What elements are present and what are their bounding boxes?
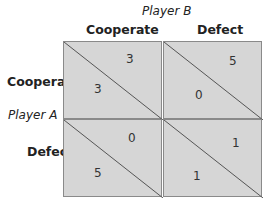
- cell-cooperate-cooperate: 3 3: [63, 41, 162, 119]
- diagonal-divider: [64, 120, 163, 198]
- payoff-b: 0: [128, 131, 136, 145]
- diagonal-divider: [64, 42, 163, 120]
- cell-cooperate-defect: 5 0: [163, 41, 262, 119]
- column-header-cooperate: Cooperate: [86, 22, 159, 37]
- payoff-a: 3: [94, 82, 102, 96]
- column-header-defect: Defect: [197, 22, 243, 37]
- payoff-b: 1: [232, 136, 240, 150]
- payoff-b: 3: [126, 52, 134, 66]
- payoff-a: 1: [193, 169, 201, 183]
- diagonal-divider: [164, 42, 263, 120]
- payoff-b: 5: [229, 54, 237, 68]
- row-player-label: Player A: [8, 108, 57, 122]
- payoff-a: 0: [195, 88, 203, 102]
- column-player-text: Player B: [142, 4, 191, 18]
- diagonal-divider: [164, 120, 263, 198]
- cell-defect-cooperate: 0 5: [63, 119, 162, 197]
- payoff-matrix: 3 3 5 0 0 5 1 1: [63, 41, 262, 197]
- payoff-a: 5: [94, 166, 102, 180]
- cell-defect-defect: 1 1: [163, 119, 262, 197]
